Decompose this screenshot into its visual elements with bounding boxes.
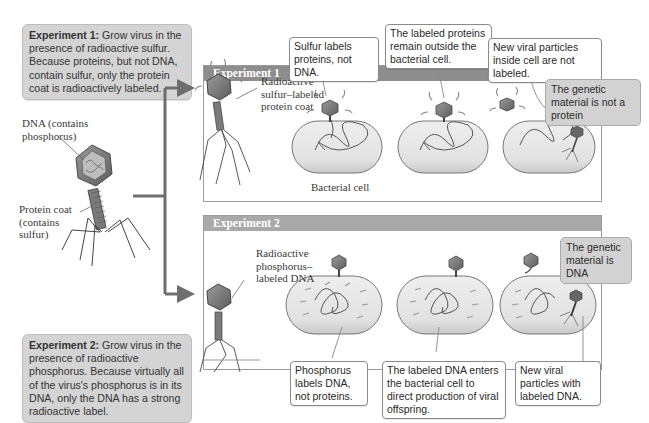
- panel2-callout-phosphorus: Phosphorus labels DNA, not proteins.: [290, 361, 368, 406]
- bacterial-cell: [398, 92, 488, 173]
- panel2-callout-dna-enters: The labeled DNA enters the bacterial cel…: [382, 361, 506, 419]
- panel2-phage-label: Radioactive phosphorus–labeled DNA: [256, 247, 322, 285]
- panel1-conclusion: The genetic material is not a protein: [545, 79, 641, 126]
- panel1-callout-new-particles: New viral particles inside cell are not …: [488, 38, 602, 83]
- panel2-phage-icon: [200, 280, 244, 372]
- panel1-callout-sulfur: Sulfur labels proteins, not DNA.: [289, 37, 379, 82]
- panel1-callout-proteins-outside: The labeled proteins remain outside the …: [385, 24, 492, 69]
- panel2-bacterial-cells: [286, 253, 596, 334]
- panel1-phage-icon: [195, 59, 257, 185]
- bacterial-cell-label: Bacterial cell: [311, 181, 391, 194]
- bacterial-cell: [397, 256, 493, 334]
- branch-arrow: [133, 88, 186, 294]
- panel2-callout-new-particles: New viral particles with labeled DNA.: [515, 361, 601, 406]
- panel2-conclusion: The genetic material is DNA: [560, 237, 632, 284]
- bacteriophage-icon: [58, 136, 150, 266]
